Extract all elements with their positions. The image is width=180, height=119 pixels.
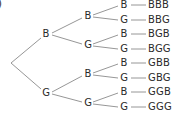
outcome-label: GBB xyxy=(148,58,170,68)
outcome-label: GGB xyxy=(148,87,171,97)
outcome-label: GBG xyxy=(148,73,171,83)
outcome-label: GGG xyxy=(148,102,172,112)
outcome-label: BBB xyxy=(148,0,169,10)
outcome-label: BGG xyxy=(148,44,171,54)
node-l3-1: B xyxy=(121,0,128,10)
node-l1-b: B xyxy=(43,29,50,39)
node-l3-2: G xyxy=(120,15,128,25)
node-l3-7: B xyxy=(121,87,128,97)
outcome-label: BBG xyxy=(148,15,170,25)
node-l2-gb: B xyxy=(85,69,92,79)
node-l3-5: B xyxy=(121,58,128,68)
node-l1-g: G xyxy=(42,88,50,98)
node-l3-3: B xyxy=(121,29,128,39)
node-l3-6: G xyxy=(120,73,128,83)
node-l2-bg: G xyxy=(84,40,92,50)
node-l3-4: G xyxy=(120,44,128,54)
outcome-label: BGB xyxy=(148,29,170,39)
node-l2-bb: B xyxy=(85,11,92,21)
node-l3-8: G xyxy=(120,102,128,112)
node-l2-gg: G xyxy=(84,98,92,108)
